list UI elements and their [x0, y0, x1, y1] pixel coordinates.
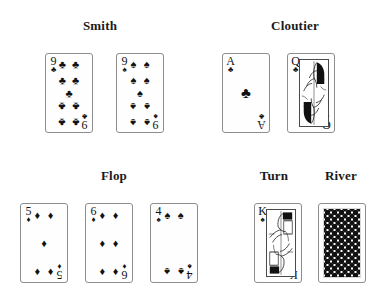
card-smith-1[interactable]: 9 ♣ 9 ♣ ♣ ♣ ♣ ♣ ♣ ♣ ♣ ♣ ♣: [45, 53, 93, 133]
clubs-icon: ♣: [72, 117, 79, 128]
spades-icon: ♠: [164, 266, 170, 277]
card-corner-bottom-right: 9 ♣: [79, 112, 90, 130]
clubs-icon: ♣: [72, 75, 79, 86]
section-label-river: River: [310, 168, 372, 184]
card-pip-field: ♦ ♦ ♦ ♦ ♦: [33, 208, 55, 278]
diamonds-icon: ♦: [113, 210, 119, 221]
spades-icon: ♠: [164, 210, 170, 221]
diamonds-icon: ♦: [35, 266, 41, 277]
clubs-icon: ♣: [72, 100, 79, 111]
card-back-pattern: [323, 208, 361, 278]
diamonds-icon: ♦: [100, 238, 106, 249]
spades-icon: ♠: [130, 117, 136, 128]
diamonds-icon: ♦: [100, 266, 106, 277]
card-pip-field: ♦ ♦ ♦ ♦ ♦ ♦: [98, 208, 120, 278]
clubs-icon: ♣: [59, 100, 66, 111]
spades-icon: ♠: [130, 100, 136, 111]
clubs-icon: ♣: [65, 88, 72, 99]
card-corner-bottom-right: 9 ♠: [150, 112, 161, 130]
card-pip-field: ♣ ♣ ♣ ♣ ♣ ♣ ♣ ♣ ♣: [58, 58, 80, 128]
card-flop-3[interactable]: 4 ♠ 4 ♠ ♠ ♠ ♠ ♠: [150, 203, 198, 283]
card-flop-2[interactable]: 6 ♦ 6 ♦ ♦ ♦ ♦ ♦ ♦ ♦: [85, 203, 133, 283]
spades-icon: ♠: [130, 75, 136, 86]
spades-icon: ♠: [144, 117, 150, 128]
spades-icon: ♠: [144, 75, 150, 86]
spades-icon: ♠: [178, 266, 184, 277]
card-flop-1[interactable]: 5 ♦ 5 ♦ ♦ ♦ ♦ ♦ ♦: [20, 203, 68, 283]
player-label-smith: Smith: [52, 18, 148, 34]
card-corner-bottom-right: 6 ♦: [119, 262, 130, 280]
card-pip-field: ♠ ♠ ♠ ♠: [163, 208, 185, 278]
card-pip-field: ♣: [235, 58, 257, 128]
card-river-face-down[interactable]: [318, 203, 366, 283]
clubs-icon: ♣: [59, 117, 66, 128]
card-cloutier-1[interactable]: A ♣ A ♣ ♣: [222, 53, 270, 133]
card-cloutier-2[interactable]: Q ♣ Q ♣: [287, 53, 335, 133]
player-label-cloutier: Cloutier: [240, 18, 350, 34]
clubs-icon: ♣: [241, 86, 251, 101]
diamonds-icon: ♦: [100, 210, 106, 221]
diamonds-icon: ♦: [113, 266, 119, 277]
clubs-icon: ♣: [59, 58, 66, 69]
clubs-icon: ♣: [59, 75, 66, 86]
diamonds-icon: ♦: [48, 266, 54, 277]
card-turn[interactable]: K ♠ K ♠: [254, 203, 302, 283]
diamonds-icon: ♦: [35, 210, 41, 221]
clubs-icon: ♣: [72, 58, 79, 69]
spades-icon: ♠: [137, 88, 143, 99]
card-corner-bottom-right: 5 ♦: [54, 262, 65, 280]
court-figure-queen: [299, 59, 329, 127]
court-figure-king: [266, 209, 296, 277]
spades-icon: ♠: [144, 100, 150, 111]
spades-icon: ♠: [144, 58, 150, 69]
card-smith-2[interactable]: 9 ♠ 9 ♠ ♠ ♠ ♠ ♠ ♠ ♠ ♠ ♠ ♠: [116, 53, 164, 133]
card-corner-bottom-right: A ♣: [256, 112, 267, 130]
poker-hand-diagram: Smith Cloutier Flop Turn River 9 ♣ 9 ♣ ♣…: [0, 0, 388, 298]
diamonds-icon: ♦: [48, 210, 54, 221]
section-label-flop: Flop: [58, 168, 170, 184]
diamonds-icon: ♦: [41, 238, 47, 249]
card-pip-field: ♠ ♠ ♠ ♠ ♠ ♠ ♠ ♠ ♠: [129, 58, 151, 128]
diamonds-icon: ♦: [113, 238, 119, 249]
section-label-turn: Turn: [246, 168, 302, 184]
spades-icon: ♠: [130, 58, 136, 69]
card-corner-bottom-right: 4 ♠: [184, 262, 195, 280]
spades-icon: ♠: [178, 210, 184, 221]
